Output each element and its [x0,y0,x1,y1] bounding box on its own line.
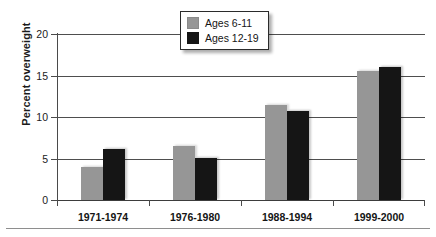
bar [287,111,309,200]
y-tick-label: 0 [42,194,48,206]
bar [379,67,401,200]
legend-label-ages-12-19: Ages 12-19 [205,32,259,44]
x-tick-mark [333,200,334,206]
x-tick-label: 1976-1980 [170,211,220,223]
x-axis: 1971-19741976-19801988-19941999-2000 [57,200,425,230]
y-tick-label: 15 [36,70,48,82]
legend-swatch-ages-12-19 [187,32,199,44]
legend-item: Ages 6-11 [187,15,259,30]
bar-chart-figure: Percent overweight 05101520 1971-1974197… [0,0,436,237]
x-tick-mark [57,200,58,206]
x-tick-label: 1999-2000 [354,211,404,223]
y-tick-mark [51,159,57,160]
x-tick-mark [424,200,425,206]
bar [81,167,103,200]
x-tick-label: 1971-1974 [78,211,128,223]
bar [103,149,125,200]
y-tick-label: 5 [42,153,48,165]
y-tick-label: 10 [36,111,48,123]
legend-swatch-ages-6-11 [187,17,199,29]
bar [357,71,379,200]
chart-legend: Ages 6-11 Ages 12-19 [180,11,269,50]
legend-item: Ages 12-19 [187,30,259,45]
y-tick-mark [51,117,57,118]
legend-label-ages-6-11: Ages 6-11 [205,17,252,29]
y-tick-label: 20 [36,28,48,40]
bar [265,105,287,200]
y-tick-mark [51,34,57,35]
x-tick-mark [149,200,150,206]
plot-area: 05101520 [57,34,425,200]
y-axis-title: Percent overweight [20,0,32,154]
x-tick-label: 1988-1994 [262,211,312,223]
y-tick-mark [51,76,57,77]
bar [195,158,217,200]
bottom-divider [6,228,430,229]
bar [173,146,195,200]
x-tick-mark [241,200,242,206]
